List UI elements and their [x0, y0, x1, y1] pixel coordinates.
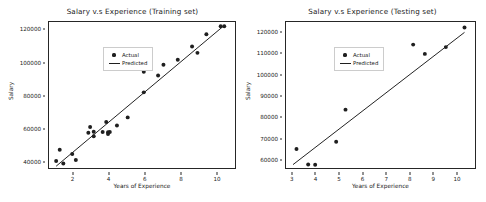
scatter-point — [88, 125, 92, 129]
scatter-point — [161, 63, 165, 67]
scatter-point — [463, 26, 467, 30]
x-tick-mark — [72, 172, 73, 175]
scatter-point — [411, 43, 415, 47]
scatter-point — [334, 140, 338, 144]
legend-item-predicted: Predicted — [338, 59, 378, 67]
x-tick-mark — [180, 172, 181, 175]
plot-svg — [49, 22, 235, 168]
marker-dot-icon — [338, 53, 352, 56]
x-axis-label: Years of Experience — [48, 183, 236, 189]
x-tick-label: 3 — [290, 176, 294, 182]
scatter-point — [58, 148, 62, 152]
x-tick-label: 8 — [179, 176, 183, 182]
scatter-point — [190, 45, 194, 49]
x-tick-mark — [362, 172, 363, 175]
x-tick-mark — [217, 172, 218, 175]
x-tick-label: 4 — [314, 176, 318, 182]
y-tick-mark — [280, 160, 283, 161]
scatter-point — [92, 134, 96, 138]
y-tick-mark — [43, 161, 46, 162]
x-tick-mark — [108, 172, 109, 175]
y-tick-mark — [43, 128, 46, 129]
x-tick-mark — [433, 172, 434, 175]
legend-item-predicted: Predicted — [107, 59, 147, 67]
x-tick-label: 4 — [107, 176, 111, 182]
x-tick-mark — [291, 172, 292, 175]
figure-canvas: Salary v.s Experience (Training set) Sal… — [0, 0, 486, 202]
x-tick-mark — [339, 172, 340, 175]
y-tick-labels: 400006000080000100000120000 — [8, 21, 45, 169]
scatter-point — [115, 123, 119, 127]
chart-title: Salary v.s Experience (Testing set) — [243, 7, 486, 16]
scatter-point — [156, 73, 160, 77]
marker-dot-icon — [107, 53, 121, 56]
legend-item-actual: Actual — [338, 51, 378, 59]
y-tick-label: 100000 — [257, 72, 282, 78]
scatter-point — [306, 162, 310, 166]
scatter-point — [108, 130, 112, 134]
scatter-point — [423, 52, 427, 56]
scatter-point — [92, 130, 96, 134]
y-tick-mark — [280, 53, 283, 54]
x-tick-label: 8 — [408, 176, 412, 182]
legend: Actual Predicted — [103, 47, 153, 71]
chart-panel-training: Salary v.s Experience (Training set) Sal… — [0, 0, 243, 202]
y-tick-label: 120000 — [20, 26, 45, 32]
x-tick-label: 10 — [214, 176, 221, 182]
y-tick-mark — [280, 74, 283, 75]
plot-svg — [286, 22, 475, 168]
scatter-point — [313, 163, 317, 167]
x-tick-label: 5 — [337, 176, 341, 182]
x-tick-mark — [144, 172, 145, 175]
chart-panel-testing: Salary v.s Experience (Testing set) Sala… — [243, 0, 486, 202]
y-tick-label: 100000 — [20, 60, 45, 66]
x-tick-mark — [456, 172, 457, 175]
y-tick-mark — [280, 117, 283, 118]
x-tick-mark — [409, 172, 410, 175]
x-tick-mark — [315, 172, 316, 175]
scatter-point — [61, 162, 65, 166]
plot-area: Actual Predicted — [48, 21, 236, 169]
scatter-point — [444, 45, 448, 49]
y-tick-label: 110000 — [257, 50, 282, 56]
scatter-point — [70, 152, 74, 156]
y-tick-mark — [43, 95, 46, 96]
x-tick-label: 6 — [143, 176, 147, 182]
scatter-point — [126, 115, 130, 119]
y-tick-mark — [280, 96, 283, 97]
x-tick-label: 7 — [384, 176, 388, 182]
y-tick-label: 120000 — [257, 29, 282, 35]
plot-area: Actual Predicted — [285, 21, 476, 169]
scatter-point — [142, 90, 146, 94]
y-tick-mark — [280, 31, 283, 32]
scatter-point — [86, 131, 90, 135]
chart-title: Salary v.s Experience (Training set) — [0, 7, 243, 16]
scatter-point — [219, 24, 223, 28]
x-tick-label: 9 — [432, 176, 436, 182]
scatter-point — [104, 120, 108, 124]
scatter-point — [195, 51, 199, 55]
x-tick-label: 2 — [71, 176, 75, 182]
y-tick-labels: 60000700008000090000100000110000120000 — [245, 21, 282, 169]
scatter-point — [176, 58, 180, 62]
x-tick-mark — [386, 172, 387, 175]
y-tick-mark — [43, 62, 46, 63]
legend-label: Predicted — [121, 60, 147, 66]
legend-label: Predicted — [352, 60, 378, 66]
x-axis-label: Years of Experience — [285, 183, 476, 189]
y-tick-mark — [43, 29, 46, 30]
x-tick-label: 10 — [453, 176, 460, 182]
scatter-point — [74, 158, 78, 162]
legend-item-actual: Actual — [107, 51, 147, 59]
line-segment-icon — [338, 63, 352, 64]
scatter-point — [54, 159, 58, 163]
scatter-point — [101, 130, 105, 134]
scatter-point — [222, 24, 226, 28]
scatter-point — [295, 147, 299, 151]
legend: Actual Predicted — [334, 47, 384, 71]
legend-label: Actual — [121, 52, 139, 58]
x-tick-label: 6 — [361, 176, 365, 182]
scatter-point — [344, 108, 348, 112]
y-tick-mark — [280, 138, 283, 139]
legend-label: Actual — [352, 52, 370, 58]
